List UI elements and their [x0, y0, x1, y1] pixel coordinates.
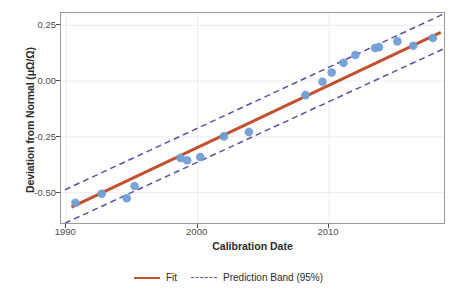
data-point [409, 42, 418, 51]
data-point [375, 43, 384, 52]
legend-key-fit-line [134, 277, 160, 279]
data-point [318, 77, 327, 86]
y-tick-label: 0.25 [22, 19, 56, 30]
data-point [245, 128, 254, 137]
data-point [429, 34, 438, 43]
y-tick-label: 0.00 [22, 75, 56, 86]
x-tick-mark [65, 224, 66, 228]
data-point [327, 68, 336, 77]
data-point [122, 194, 131, 203]
data-point [339, 58, 348, 67]
data-point [220, 132, 229, 141]
fit-line [72, 32, 441, 207]
prediction-band-line [65, 49, 443, 223]
y-tick-mark [56, 24, 60, 25]
x-tick-mark [328, 224, 329, 228]
y-tick-mark [56, 136, 60, 137]
y-tick-label: -0.50 [22, 186, 56, 197]
legend-label-fit: Fit [166, 272, 177, 283]
data-point [301, 91, 310, 100]
legend-key-prediction-band-line [191, 277, 217, 278]
data-point [97, 189, 106, 198]
legend-entry-fit: Fit [134, 272, 177, 283]
chart-container: Deviation from Normal (μΩ/Ω) 0.250.00-0.… [0, 0, 457, 301]
data-point [183, 156, 192, 165]
chart-legend: Fit Prediction Band (95%) [0, 272, 457, 283]
y-tick-mark [56, 192, 60, 193]
legend-label-prediction-band: Prediction Band (95%) [223, 272, 323, 283]
x-tick-mark [197, 224, 198, 228]
y-tick-mark [56, 80, 60, 81]
prediction-band-line [65, 14, 443, 190]
x-axis-title: Calibration Date [60, 240, 445, 252]
y-axis-tick-labels: 0.250.00-0.25-0.50 [16, 0, 56, 301]
plot-panel [60, 12, 445, 224]
legend-entry-prediction-band: Prediction Band (95%) [191, 272, 323, 283]
data-point [393, 37, 402, 46]
data-point [196, 153, 205, 162]
data-point [71, 198, 80, 207]
y-tick-label: -0.25 [22, 130, 56, 141]
data-point [130, 182, 139, 191]
plot-svg [61, 13, 445, 224]
data-point [351, 51, 360, 60]
